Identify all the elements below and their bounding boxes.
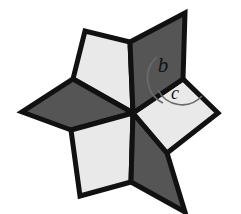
angle-label-b: b: [158, 53, 169, 77]
angle-label-c: c: [171, 83, 179, 103]
geometry-figure-canvas: b c: [0, 0, 241, 214]
star-diagram: b c: [0, 0, 241, 214]
rhombus-bottom-left-light: [71, 113, 133, 196]
